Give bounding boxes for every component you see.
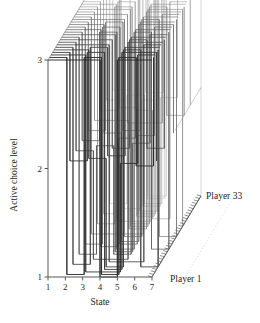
plot-canvas: Active choice level State Player 1 Playe… (0, 0, 260, 323)
data-lines (48, 0, 201, 277)
x-tick-label: 6 (132, 282, 137, 292)
x-axis-title: State (91, 297, 110, 307)
x-tick-label: 7 (150, 282, 155, 292)
y-tick-label: 2 (38, 164, 43, 174)
x-tick-label: 3 (80, 282, 85, 292)
chart-figure: Active choice level State Player 1 Playe… (0, 0, 260, 323)
x-tick-label: 4 (98, 282, 103, 292)
y-tick-label: 1 (38, 272, 43, 282)
player-first-label: Player 1 (170, 274, 202, 284)
y-axis-title: Active choice level (9, 138, 19, 212)
player-last-label: Player 33 (206, 191, 242, 201)
x-tick-label: 5 (115, 282, 120, 292)
axis-labels: Active choice level State Player 1 Playe… (9, 55, 242, 307)
y-tick-label: 3 (38, 55, 43, 65)
x-tick-label: 2 (63, 282, 68, 292)
x-tick-label: 1 (46, 282, 51, 292)
